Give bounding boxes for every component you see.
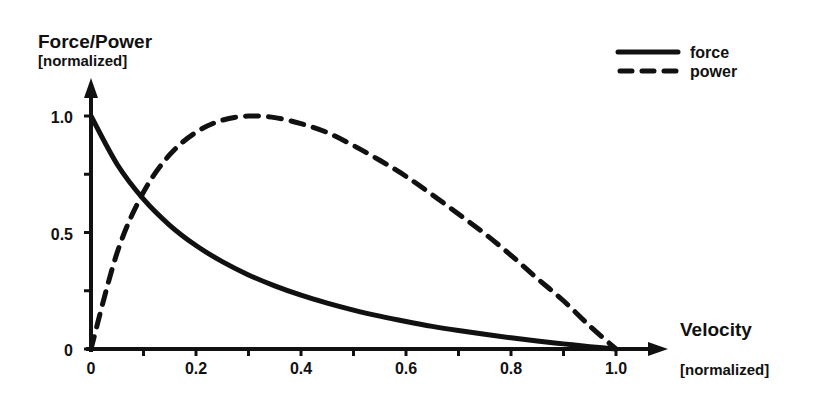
legend: force power: [618, 44, 737, 80]
axis-ticks: [84, 116, 616, 356]
legend-label-power: power: [690, 63, 737, 80]
x-tick-label: 0.2: [185, 360, 207, 377]
x-axis-title: Velocity: [680, 319, 752, 340]
x-axis-unit: [normalized]: [680, 361, 769, 378]
x-tick-label: 0: [87, 360, 96, 377]
y-axis-unit: [normalized]: [38, 52, 127, 69]
y-axis-arrow-icon: [84, 78, 98, 98]
plot-area: [91, 116, 616, 349]
x-tick-label: 0.8: [500, 360, 522, 377]
y-tick-label: 0: [64, 342, 73, 359]
x-tick-label: 0.4: [290, 360, 312, 377]
y-tick-label: 1.0: [51, 109, 73, 126]
y-tick-label: 0.5: [51, 226, 73, 243]
force-velocity-chart: Force/Power [normalized] 1.0 0.5 0 0 0.2…: [0, 0, 835, 401]
y-axis-title: Force/Power: [38, 31, 153, 52]
x-tick-label: 1.0: [605, 360, 627, 377]
legend-label-force: force: [690, 44, 729, 61]
x-axis-arrow-icon: [648, 342, 668, 356]
power-curve: [91, 116, 616, 349]
x-tick-label: 0.6: [395, 360, 417, 377]
